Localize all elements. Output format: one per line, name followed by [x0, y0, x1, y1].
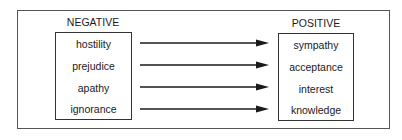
positive-item-knowledge: knowledge: [279, 104, 353, 116]
positive-item-interest: interest: [279, 83, 353, 95]
arrow-icon-hostility-to-sympathy: [140, 39, 269, 47]
negative-item-hostility: hostility: [56, 38, 131, 50]
negative-item-apathy: apathy: [56, 82, 131, 94]
arrow-icon-ignorance-to-knowledge: [140, 105, 269, 113]
arrow-icon-prejudice-to-acceptance: [140, 61, 269, 69]
arrow-icon-apathy-to-interest: [140, 83, 269, 91]
negative-item-ignorance: ignorance: [56, 103, 131, 115]
negative-box: hostility prejudice apathy ignorance: [55, 32, 132, 120]
positive-heading: POSITIVE: [278, 17, 354, 29]
positive-box: sympathy acceptance interest knowledge: [278, 33, 354, 121]
negative-item-prejudice: prejudice: [56, 60, 131, 72]
positive-item-sympathy: sympathy: [279, 39, 353, 51]
negative-heading: NEGATIVE: [55, 16, 131, 28]
positive-item-acceptance: acceptance: [279, 61, 353, 73]
